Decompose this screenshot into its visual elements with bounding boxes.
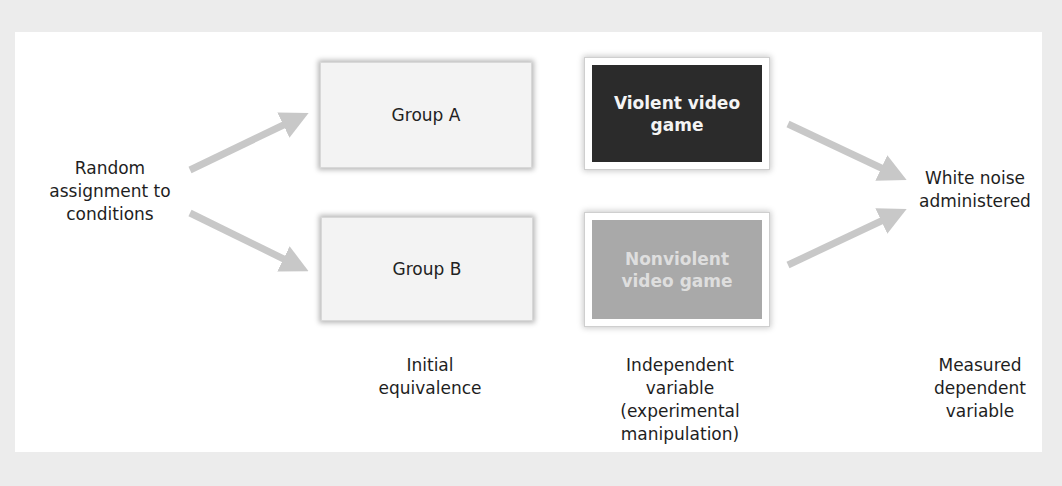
group-b-box: Group B bbox=[321, 217, 533, 321]
group-a-box: Group A bbox=[320, 62, 532, 168]
arrow-violent-to-outcome-icon bbox=[788, 124, 894, 174]
group-b-label: Group B bbox=[393, 258, 462, 280]
arrow-to-group-a-icon bbox=[190, 119, 296, 170]
violent-video-game-label: Violent video game bbox=[614, 92, 740, 136]
dependent-variable-caption: Measured dependent variable bbox=[915, 354, 1045, 423]
white-noise-label: White noise administered bbox=[900, 167, 1050, 213]
independent-variable-caption: Independent variable (experimental manip… bbox=[590, 354, 770, 446]
violent-video-game-box: Violent video game bbox=[585, 58, 769, 169]
group-a-label: Group A bbox=[392, 104, 461, 126]
arrow-nonviolent-to-outcome-icon bbox=[788, 215, 894, 265]
initial-equivalence-caption: Initial equivalence bbox=[350, 354, 510, 400]
arrow-to-group-b-icon bbox=[190, 213, 296, 265]
nonviolent-video-game-box: Nonviolent video game bbox=[585, 213, 769, 326]
nonviolent-video-game-label: Nonviolent video game bbox=[621, 248, 732, 292]
random-assignment-label: Random assignment to conditions bbox=[30, 157, 190, 226]
